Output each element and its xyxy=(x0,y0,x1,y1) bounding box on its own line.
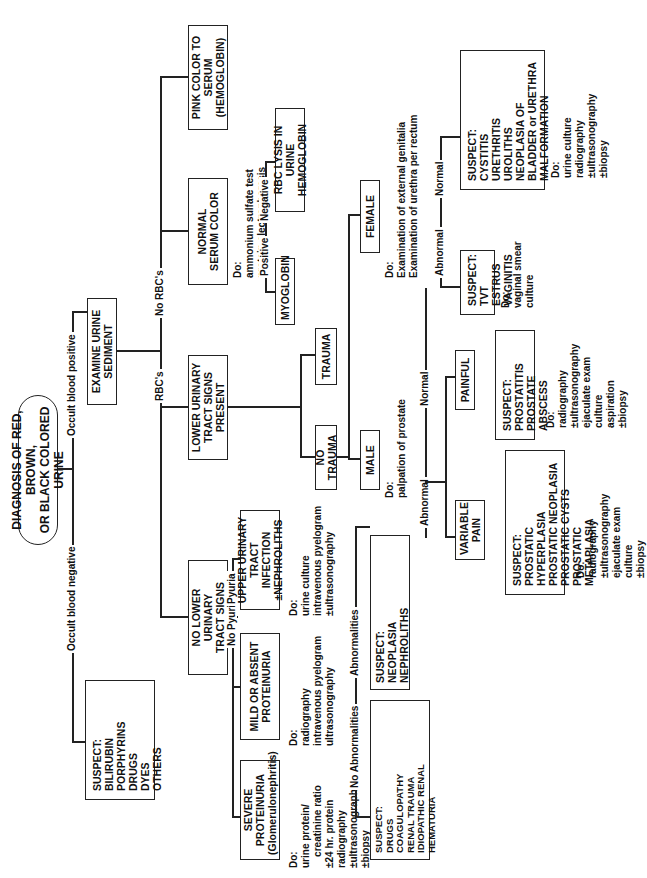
node-no-trauma: NO TRAUMA xyxy=(315,425,337,490)
edge-no-abnormalities: No Abnormalities xyxy=(349,704,360,790)
node-myoglobin: MYOGLOBIN xyxy=(275,258,295,325)
do-painful: Do: radiography ±ultrasonography ejacula… xyxy=(545,344,629,428)
node-male: MALE xyxy=(360,430,380,490)
node-severe-proteinuria: SEVEREPROTEINURIA(Glomerulonephritis) xyxy=(240,760,280,860)
node-lower-present: LOWER URINARYTRACT SIGNSPRESENT xyxy=(188,355,228,460)
node-trauma: TRAUMA xyxy=(315,328,337,385)
node-examine-sediment: EXAMINE URINESEDIMENT xyxy=(87,298,117,405)
node-female: FEMALE xyxy=(360,180,380,253)
edge-normal-female: Normal xyxy=(434,160,445,198)
do-female: Do: Examination of external genitalia Ex… xyxy=(384,115,420,278)
node-suspect-neoplasia: SUSPECT:NEOPLASIANEPHROLITHS xyxy=(370,535,410,690)
edge-rbcs: RBC's xyxy=(154,369,165,403)
node-painful: PAINFUL xyxy=(455,350,475,410)
node-pink-serum: PINK COLOR TOSERUM(HEMOGLOBIN) xyxy=(188,25,228,130)
node-suspect-drugs: SUSPECT:DRUGSCOAGULOPATHYRENAL TRAUMAIDI… xyxy=(370,700,430,860)
node-upper-infection: UPPER URINARYTRACT INFECTION±NEPHROLITHS xyxy=(240,510,280,610)
node-variable-pain: VARIABLEPAIN xyxy=(455,500,485,560)
do-variable: Do: radiography ±ultrasonography ejacula… xyxy=(575,494,647,578)
edge-abnormalities: Abnormalities xyxy=(349,607,360,678)
node-no-lower: NO LOWER URINARYTRACT SIGNS xyxy=(188,560,228,675)
edge-abnormal-female: Abnormal xyxy=(434,227,445,278)
edge-positive: Positive xyxy=(259,236,270,278)
node-mild-proteinuria: MILD OR ABSENTPROTEINURIA xyxy=(240,633,280,740)
node-normal-serum: NORMALSERUM COLOR xyxy=(188,178,228,285)
edge-occult-negative: Occult blood negative xyxy=(66,545,77,653)
edge-occult-positive: Occult blood positive xyxy=(66,332,77,438)
edge-negative: Negative xyxy=(259,177,270,223)
edge-no-rbcs: No RBC's xyxy=(154,268,165,318)
do-severe: Do: urine protein/ creatinine ratio ±24 … xyxy=(288,784,372,868)
title-line: DIAGNOSIS OF RED, BROWN, xyxy=(10,400,38,540)
node-rbc-lysis: RBC LYSIS IN URINEHEMOGLOBIN xyxy=(275,108,305,212)
do-upper: Do: urine culture intravenous pyelogram … xyxy=(288,506,336,616)
node-suspect-pigments: SUSPECT:BILIRUBINPORPHYRINSDRUGSDYESOTHE… xyxy=(85,680,155,800)
node-suspect-cystitis: SUSPECT:CYSTITISURETHRITISUROLITHSNEOPLA… xyxy=(460,50,545,190)
edge-normal-prostate: Normal xyxy=(419,370,430,408)
do-mild: Do: radiography intravenous pyelogram ul… xyxy=(288,636,336,746)
node-suspect-tvt: SUSPECT:TVTESTRUSVAGINITIS xyxy=(460,250,495,315)
do-cystitis: Do: urine culture radiography ±ultrasono… xyxy=(550,94,610,178)
do-male: Do: palpation of prostate xyxy=(384,399,408,498)
title-line: OR BLACK COLORED URINE xyxy=(38,400,66,540)
do-tvt: Do: vaginal smear culture xyxy=(500,241,536,308)
title-node: DIAGNOSIS OF RED, BROWN, OR BLACK COLORE… xyxy=(18,395,58,545)
node-suspect-hyperplasia: SUSPECT:PROSTATIC HYPERPLASIAPROSTATIC N… xyxy=(505,450,565,595)
node-suspect-prostatitis: SUSPECT:PROSTATITISPROSTATE ABSCESS xyxy=(495,330,535,440)
edge-abnormal-prostate: Abnormal xyxy=(419,477,430,528)
